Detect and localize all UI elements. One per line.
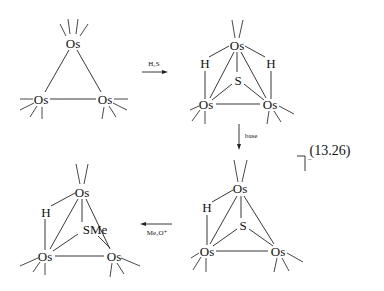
atom-os-top: Os xyxy=(75,185,89,200)
atom-os-top: Os xyxy=(233,181,247,196)
reaction-arrow-me3o: Me₃O⁺ xyxy=(140,222,172,237)
structure-h2os3s: Os H H S Os Os xyxy=(190,20,294,124)
reagent-me3o: Me₃O⁺ xyxy=(147,229,168,237)
atom-os-top: Os xyxy=(66,36,80,51)
charge-bracket: − xyxy=(297,156,312,171)
atom-s: S xyxy=(234,73,241,88)
atom-os-left: Os xyxy=(200,244,214,259)
atom-os-left: Os xyxy=(34,92,48,107)
atom-os-right: Os xyxy=(263,97,277,112)
atom-os-left: Os xyxy=(38,249,52,264)
structure-hos3sme: Os H SMe Os Os xyxy=(20,164,140,277)
atom-h-left: H xyxy=(202,200,211,215)
structure-os3-cluster: Os Os Os xyxy=(20,19,128,119)
atom-h-left: H xyxy=(41,205,50,220)
atom-s: S xyxy=(239,218,246,233)
atom-os-right: Os xyxy=(98,92,112,107)
charge-sign: − xyxy=(308,156,312,164)
reagent-base: base xyxy=(245,132,257,140)
reaction-arrow-base: base xyxy=(237,124,257,150)
atom-sme: SMe xyxy=(83,222,108,237)
atom-os-left: Os xyxy=(199,97,213,112)
atom-os-right: Os xyxy=(107,249,121,264)
equation-number: (13.26) xyxy=(310,143,351,159)
atom-os-top: Os xyxy=(230,38,244,53)
reaction-scheme: Os Os Os H₂S Os H H S O xyxy=(0,0,384,291)
atom-h-left: H xyxy=(200,56,209,71)
reaction-arrow-h2s: H₂S xyxy=(142,60,168,74)
atom-h-right: H xyxy=(266,56,275,71)
atom-os-right: Os xyxy=(271,244,285,259)
reagent-h2s: H₂S xyxy=(148,60,159,68)
structure-hos3s-anion: Os H S Os Os − xyxy=(191,156,312,272)
